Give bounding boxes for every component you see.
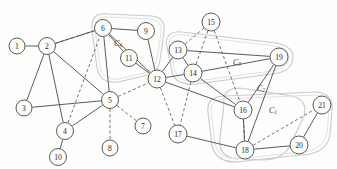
node-label-9: 9 xyxy=(144,27,148,36)
graph-node-14[interactable]: 14 xyxy=(184,64,202,82)
node-label-19: 19 xyxy=(275,53,283,62)
graph-edge-11-12 xyxy=(136,63,149,73)
graph-edge-5-12 xyxy=(118,83,148,97)
graph-edge-5-6 xyxy=(104,37,109,91)
node-label-6: 6 xyxy=(101,24,105,33)
graph-edge-12-17 xyxy=(160,88,174,125)
graph-edge-12-14 xyxy=(166,75,183,78)
graph-node-10[interactable]: 10 xyxy=(50,149,67,166)
graph-node-16[interactable]: 16 xyxy=(234,101,252,119)
graph-edge-4-10 xyxy=(60,140,62,149)
graph-node-9[interactable]: 9 xyxy=(138,23,155,40)
node-label-1: 1 xyxy=(15,42,19,51)
graph-node-1[interactable]: 1 xyxy=(9,38,25,54)
graph-node-4[interactable]: 4 xyxy=(57,123,74,140)
graph-nodes-layer: 123456789101112131415161718192021 xyxy=(9,13,331,166)
node-label-2: 2 xyxy=(45,42,49,51)
graph-node-15[interactable]: 15 xyxy=(202,13,220,31)
node-label-8: 8 xyxy=(108,144,112,153)
graph-node-6[interactable]: 6 xyxy=(95,20,112,37)
graph-node-13[interactable]: 13 xyxy=(169,41,187,59)
graph-edge-2-6 xyxy=(55,31,94,44)
node-label-12: 12 xyxy=(153,75,161,84)
cluster-label-c1: C1 xyxy=(269,106,277,116)
node-label-4: 4 xyxy=(63,127,67,136)
graph-edge-14-15 xyxy=(196,31,208,64)
graph-edge-12-16 xyxy=(166,82,234,107)
graph-node-21[interactable]: 21 xyxy=(313,96,331,114)
graph-node-12[interactable]: 12 xyxy=(148,70,166,88)
graph-node-8[interactable]: 8 xyxy=(102,140,118,156)
graph-clustering-diagram: C4C3C2C1 1234567891011121314151617181920… xyxy=(0,0,337,169)
node-label-16: 16 xyxy=(239,106,247,115)
node-label-5: 5 xyxy=(108,96,112,105)
graph-node-5[interactable]: 5 xyxy=(102,92,119,109)
graph-edge-14-17 xyxy=(180,82,191,125)
cluster-label-c2: C2 xyxy=(257,84,265,94)
node-label-15: 15 xyxy=(207,18,215,27)
cluster-label-c3: C3 xyxy=(233,58,241,68)
graph-edge-5-7 xyxy=(117,106,136,121)
graph-node-11[interactable]: 11 xyxy=(121,50,138,67)
graph-edge-2-3 xyxy=(27,54,44,100)
node-label-21: 21 xyxy=(318,101,326,110)
graph-edge-6-9 xyxy=(112,29,137,31)
graph-node-7[interactable]: 7 xyxy=(135,118,151,134)
graph-node-19[interactable]: 19 xyxy=(270,48,288,66)
graph-node-20[interactable]: 20 xyxy=(290,136,308,154)
graph-edge-4-5 xyxy=(72,105,102,126)
graph-canvas: C4C3C2C1 1234567891011121314151617181920… xyxy=(0,0,337,169)
graph-edge-13-14 xyxy=(183,58,188,65)
node-label-10: 10 xyxy=(54,153,62,162)
graph-edge-3-5 xyxy=(32,101,101,107)
node-label-20: 20 xyxy=(295,141,303,150)
cluster-label-c4: C4 xyxy=(114,39,122,49)
graph-edge-16-18 xyxy=(243,119,244,140)
node-label-18: 18 xyxy=(241,146,249,155)
node-label-17: 17 xyxy=(174,130,182,139)
graph-edge-9-12 xyxy=(148,40,155,70)
graph-node-3[interactable]: 3 xyxy=(16,100,32,116)
graph-edge-2-4 xyxy=(49,55,63,123)
graph-node-2[interactable]: 2 xyxy=(39,38,56,55)
node-label-11: 11 xyxy=(125,54,133,63)
graph-node-17[interactable]: 17 xyxy=(169,125,187,143)
node-label-3: 3 xyxy=(22,104,26,113)
graph-edge-18-20 xyxy=(254,146,289,149)
graph-node-18[interactable]: 18 xyxy=(236,141,254,159)
node-label-7: 7 xyxy=(141,122,145,131)
graph-edge-20-21 xyxy=(304,113,318,137)
node-label-13: 13 xyxy=(174,46,182,55)
node-label-14: 14 xyxy=(189,69,197,78)
